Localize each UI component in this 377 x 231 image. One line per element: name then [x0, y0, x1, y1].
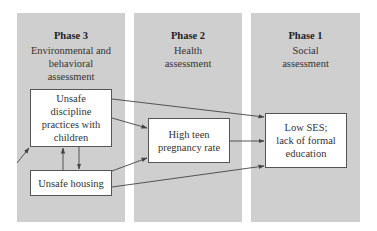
arrow-discipline-to-ses: [112, 99, 264, 117]
arrow-discipline-to-pregnancy: [112, 118, 147, 128]
arrow-housing-to-ses: [112, 166, 264, 187]
arrow-housing-to-pregnancy: [112, 158, 147, 171]
arrows-layer: [0, 0, 377, 231]
arrow-external-to-discipline: [17, 148, 29, 163]
